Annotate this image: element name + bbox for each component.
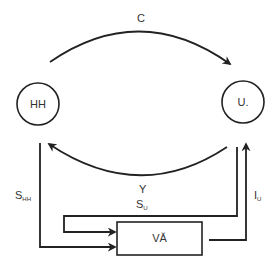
i-u-flow-arrow <box>209 144 246 240</box>
c-flow-label: C <box>137 13 145 24</box>
u-node-label: U. <box>230 97 256 108</box>
y-flow-label: Y <box>139 184 146 195</box>
s-u-sub: U <box>143 205 147 211</box>
s-u-flow-label: SU <box>136 199 148 211</box>
diagram-canvas <box>0 0 275 267</box>
y-flow-arrow <box>49 144 227 175</box>
s-u-flow-arrow <box>64 147 237 232</box>
s-hh-sub: HH <box>22 196 31 202</box>
s-hh-flow-label: SHH <box>15 190 31 202</box>
c-flow-arrow <box>50 31 230 64</box>
i-u-flow-label: IU <box>254 190 261 202</box>
i-u-sub: U <box>257 196 261 202</box>
hh-node-label: HH <box>25 99 51 110</box>
va-node-label: VĂ <box>117 233 202 244</box>
